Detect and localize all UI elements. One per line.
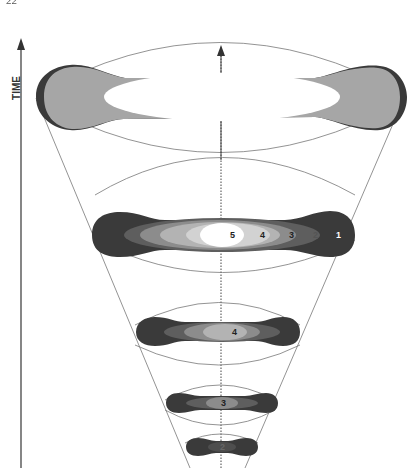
- layer-label-4-small: 4: [232, 327, 237, 337]
- top-layer: [36, 65, 407, 130]
- layer-label-4: 4: [260, 230, 265, 240]
- layer-label-2-small: 2: [220, 442, 225, 452]
- layer-label-2: 2: [313, 230, 318, 240]
- layer-label-1: 1: [336, 230, 341, 240]
- time-axis: TIME: [11, 38, 25, 468]
- layer-label-5: 5: [230, 230, 235, 240]
- layer-label-3-small: 3: [221, 398, 226, 408]
- second-layer: 5 4 3 2 1: [92, 158, 355, 273]
- layer-label-3: 3: [289, 230, 294, 240]
- third-layer: 4: [135, 303, 300, 366]
- central-arrow-icon: [217, 45, 225, 56]
- time-label: TIME: [11, 76, 22, 100]
- time-cone-diagram: TIME 5 4 3 2 1: [0, 0, 417, 468]
- time-arrow-icon: [17, 38, 25, 50]
